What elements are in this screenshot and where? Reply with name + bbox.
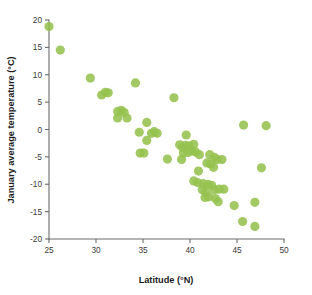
x-tick-label: 30 — [91, 245, 101, 255]
data-point — [131, 78, 140, 87]
y-tick-label: -15 — [30, 207, 42, 217]
chart-canvas: 20151050-5-10-15-20 253035404550 Latitud… — [0, 0, 312, 295]
y-tick-label: 10 — [33, 70, 43, 80]
data-point — [86, 73, 95, 82]
data-point — [194, 167, 203, 176]
y-tick-label: 20 — [33, 15, 43, 25]
x-tick-label: 40 — [185, 245, 195, 255]
data-point — [214, 197, 223, 206]
data-point — [182, 130, 191, 139]
data-point — [113, 113, 122, 122]
data-point — [163, 154, 172, 163]
data-point — [135, 128, 144, 137]
data-point — [239, 121, 248, 130]
y-tick-label: -10 — [30, 179, 42, 189]
scatter-chart-figure: 20151050-5-10-15-20 253035404550 Latitud… — [0, 0, 312, 295]
y-tick-label: -20 — [30, 234, 42, 244]
data-point — [230, 201, 239, 210]
data-point — [169, 93, 178, 102]
x-tick-label: 35 — [138, 245, 148, 255]
data-point — [217, 155, 226, 164]
x-axis-tick-labels: 253035404550 — [44, 245, 289, 255]
y-axis-tick-labels: 20151050-5-10-15-20 — [30, 15, 42, 244]
data-point — [250, 198, 259, 207]
data-point — [238, 217, 247, 226]
data-point — [104, 88, 113, 97]
data-point — [142, 118, 151, 127]
x-tick-label: 25 — [44, 245, 54, 255]
data-point — [142, 136, 151, 145]
x-tick-label: 45 — [232, 245, 242, 255]
y-tick-label: -5 — [35, 152, 43, 162]
data-points-group — [44, 22, 270, 231]
data-point — [219, 185, 228, 194]
data-point — [122, 113, 131, 122]
y-tick-label: 0 — [37, 125, 42, 135]
data-point — [209, 163, 218, 172]
data-point — [195, 150, 204, 159]
data-point — [250, 222, 259, 231]
data-point — [153, 129, 162, 138]
x-tick-label: 50 — [279, 245, 289, 255]
data-point — [44, 22, 53, 31]
axis-ticks — [45, 20, 284, 243]
y-tick-label: 15 — [33, 42, 43, 52]
y-tick-label: 5 — [37, 97, 42, 107]
data-point — [139, 148, 148, 157]
data-point — [257, 163, 266, 172]
y-axis-title: January average temperature (°C) — [6, 56, 16, 203]
data-point — [262, 121, 271, 130]
data-point — [56, 46, 65, 55]
x-axis-title: Latitude (°N) — [139, 275, 194, 285]
